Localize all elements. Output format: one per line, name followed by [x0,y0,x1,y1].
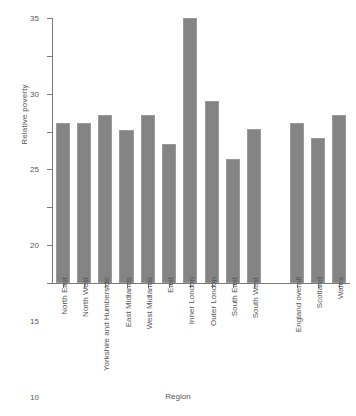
x-axis-title: Region [0,392,356,401]
y-tick-label: 35 [30,14,39,23]
x-tick-label: East [166,277,175,377]
bars-layer [52,18,350,283]
x-tick-label: South East [230,277,239,377]
x-tick-label: Outer London [209,277,218,377]
bar [290,123,304,284]
bar [183,18,197,283]
y-tick: 25 [47,94,52,95]
x-tick-label: North West [81,277,90,377]
y-tick: 30 [47,56,52,57]
y-tick: 10 [47,207,52,208]
bar [141,115,155,283]
plot-area: 05101520253035 [52,18,350,283]
y-axis-title: Relative poverty [20,55,29,175]
y-tick: 5 [47,245,52,246]
y-tick: 35 [47,18,52,19]
x-tick-label: Inner London [187,277,196,377]
bar [311,138,325,283]
y-tick: 15 [47,169,52,170]
y-tick-label: 15 [30,316,39,325]
x-tick-label: Scotland [315,277,324,377]
x-tick-label: North East [60,277,69,377]
x-tick-label: East Midlands [124,277,133,377]
bar [56,123,70,284]
bar [332,115,346,283]
x-tick-label: Wales [336,277,345,377]
y-tick-label: 30 [30,89,39,98]
bar [162,144,176,283]
x-tick-label: Yorkshire and Humberside [102,277,111,373]
x-tick-label: West Midlands [145,277,154,377]
bar [247,129,261,283]
x-tick-label: England overall [294,277,303,377]
y-tick-label: 25 [30,165,39,174]
poverty-bar-chart: Relative poverty 05101520253035 North Ea… [0,0,356,416]
bar [205,101,219,283]
bar [226,159,240,283]
y-tick: 0 [47,283,52,284]
bar [119,130,133,283]
bar [98,115,112,283]
bar [77,123,91,284]
x-axis-line [52,283,350,284]
y-tick: 20 [47,132,52,133]
x-tick-label: South West [251,277,260,377]
y-tick-label: 20 [30,241,39,250]
